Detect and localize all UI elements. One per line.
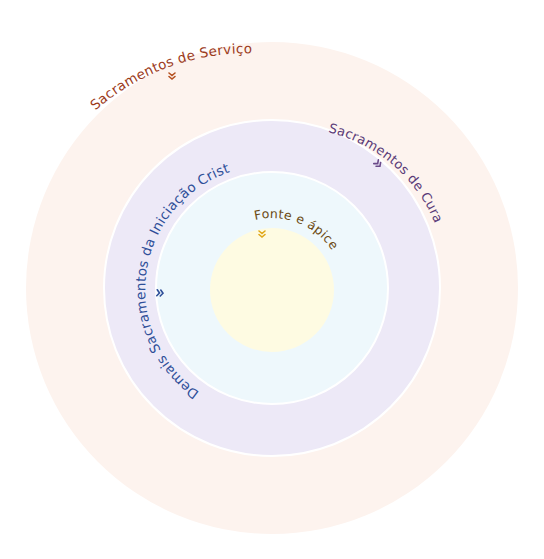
concentric-sacraments-diagram: Sacramentos de Serviço Sacramentos de Cu… (0, 0, 544, 559)
ring-fonte (210, 228, 334, 352)
